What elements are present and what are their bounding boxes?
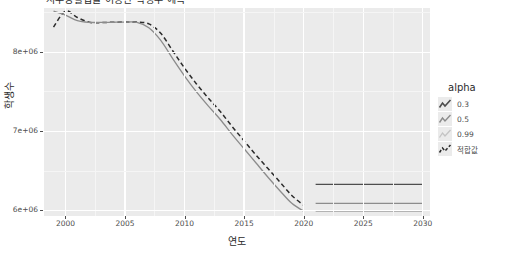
x-axis-tick-label: 2005 [115,219,134,228]
legend-item-label: 0.3 [457,100,469,109]
x-axis-tick-label: 2010 [175,219,194,228]
chart-title: 지수평활법을 이용한 학생수 예측 [46,0,185,6]
y-axis-tick-mark [40,210,43,211]
x-axis-tick-mark [363,216,364,219]
gridline-major-horizontal [44,131,430,132]
y-axis-tick-label: 8e+06 [0,47,38,56]
x-axis-tick-label: 2000 [56,219,75,228]
legend-key-dashed [438,142,452,156]
gridline-minor-vertical [95,8,96,216]
gridline-major-horizontal [44,52,430,53]
gridline-major-vertical [363,8,364,216]
chart-root: 지수평활법을 이용한 학생수 예측 6e+067e+068e+062000200… [0,0,509,258]
x-axis-title: 연도 [44,233,430,248]
legend-item-label: 0.5 [457,115,469,124]
x-axis-tick-mark [185,216,186,219]
x-axis-tick-label: 2015 [235,219,254,228]
legend-items: 0.30.50.99적합값 [438,97,509,156]
gridline-major-vertical [65,8,66,216]
gridline-major-vertical [243,8,244,216]
y-axis-tick-label: 7e+06 [0,126,38,135]
gridline-major-vertical [303,8,304,216]
gridline-minor-vertical [214,8,215,216]
legend-item: 적합값 [438,142,509,156]
x-axis-tick-mark [423,216,424,219]
x-axis-tick-mark [65,216,66,219]
gridline-minor-vertical [393,8,394,216]
y-axis-tick-mark [40,52,43,53]
legend: alpha 0.30.50.99적합값 [438,82,509,157]
x-axis-tick-mark [125,216,126,219]
legend-title: alpha [448,82,509,93]
plot-lines [44,8,430,216]
gridline-minor-vertical [333,8,334,216]
gridline-minor-vertical [274,8,275,216]
legend-item-label: 적합값 [457,144,478,155]
x-axis-tick-label: 2030 [413,219,432,228]
gridline-major-vertical [124,8,125,216]
gridline-minor-horizontal [44,12,430,13]
legend-key-mid [438,112,452,126]
legend-item-label: 0.99 [457,130,474,139]
y-axis-title: 학생수 [1,66,16,126]
x-axis-tick-label: 2025 [354,219,373,228]
x-axis-tick-label: 2020 [294,219,313,228]
gridline-minor-horizontal [44,91,430,92]
gridline-major-vertical [184,8,185,216]
legend-item: 0.99 [438,127,509,141]
legend-item: 0.5 [438,112,509,126]
legend-key-dark [438,97,452,111]
gridline-major-horizontal [44,210,430,211]
y-axis-tick-label: 6e+06 [0,205,38,214]
series-line [54,11,304,211]
gridline-major-vertical [422,8,423,216]
legend-key-light [438,127,452,141]
plot-panel [44,8,430,216]
y-axis-tick-mark [40,131,43,132]
gridline-minor-vertical [154,8,155,216]
x-axis-tick-mark [244,216,245,219]
gridline-minor-horizontal [44,171,430,172]
x-axis-tick-mark [304,216,305,219]
legend-item: 0.3 [438,97,509,111]
